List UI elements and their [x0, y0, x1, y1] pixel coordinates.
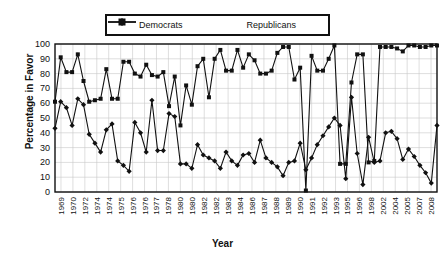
data-point-democrats — [70, 123, 75, 128]
data-point-republicans — [178, 123, 182, 127]
data-point-democrats — [149, 98, 154, 103]
data-point-democrats — [52, 126, 57, 131]
data-point-republicans — [64, 70, 68, 74]
data-point-republicans — [435, 43, 439, 47]
data-point-democrats — [178, 161, 183, 166]
data-point-republicans — [241, 66, 245, 70]
data-point-democrats — [360, 182, 365, 187]
data-point-democrats — [298, 141, 303, 146]
data-point-republicans — [292, 78, 296, 82]
x-axis-tick-label: 1969 — [57, 196, 66, 214]
x-axis-tick-label: 1980 — [188, 196, 197, 214]
y-axis-tick-label: 60 — [40, 98, 50, 108]
data-point-republicans — [406, 43, 410, 47]
x-axis-tick-label: 1974 — [105, 196, 114, 214]
data-point-republicans — [121, 60, 125, 64]
data-point-republicans — [144, 63, 148, 67]
data-point-republicans — [378, 45, 382, 49]
data-point-republicans — [275, 51, 279, 55]
data-point-republicans — [133, 72, 137, 76]
x-axis-tick-label: 1975 — [117, 196, 126, 214]
x-axis-tick-label: 1984 — [236, 196, 245, 214]
x-axis-tick-label: 1980 — [176, 196, 185, 214]
data-point-republicans — [224, 69, 228, 73]
data-point-republicans — [104, 67, 108, 71]
y-axis-tick-label: 70 — [40, 83, 50, 93]
chart-container: Democrats Republicans Percentage in Favo… — [0, 0, 445, 260]
data-point-republicans — [201, 57, 205, 61]
data-point-democrats — [195, 142, 200, 147]
data-point-democrats — [241, 152, 246, 157]
data-point-republicans — [87, 100, 91, 104]
data-point-republicans — [173, 75, 177, 79]
data-point-republicans — [367, 160, 371, 164]
x-axis-tick-label: 1972 — [81, 196, 90, 214]
x-axis-tick-label: 1974 — [93, 196, 102, 214]
y-axis-tick-label: 90 — [40, 54, 50, 64]
data-point-democrats — [286, 160, 291, 165]
y-axis-tick-label: 50 — [40, 113, 50, 123]
data-point-republicans — [167, 104, 171, 108]
x-axis-tick-label: 2007 — [415, 196, 424, 214]
data-point-republicans — [70, 70, 74, 74]
data-point-republicans — [429, 43, 433, 47]
data-point-republicans — [230, 69, 234, 73]
data-point-democrats — [161, 148, 166, 153]
data-point-republicans — [161, 70, 165, 74]
data-point-republicans — [287, 45, 291, 49]
data-point-republicans — [418, 45, 422, 49]
data-point-republicans — [344, 162, 348, 166]
data-point-republicans — [207, 95, 211, 99]
data-point-republicans — [127, 60, 131, 64]
data-point-democrats — [138, 130, 143, 135]
x-axis-tick-label: 1983 — [224, 196, 233, 214]
y-axis-tick-label: 30 — [40, 143, 50, 153]
chart-plot-area: 0102030405060708090100196919701972197419… — [0, 0, 445, 260]
data-point-republicans — [304, 189, 308, 193]
data-point-republicans — [139, 75, 143, 79]
data-point-republicans — [332, 43, 336, 47]
data-point-republicans — [76, 52, 80, 56]
data-point-democrats — [309, 155, 314, 160]
data-point-democrats — [166, 111, 171, 116]
data-point-republicans — [412, 43, 416, 47]
data-point-republicans — [355, 52, 359, 56]
data-point-republicans — [361, 52, 365, 56]
data-point-republicans — [156, 75, 160, 79]
data-point-republicans — [395, 46, 399, 50]
data-point-republicans — [384, 45, 388, 49]
data-point-republicans — [235, 48, 239, 52]
data-point-democrats — [172, 114, 177, 119]
y-axis-tick-label: 0 — [45, 187, 50, 197]
y-axis-tick-label: 40 — [40, 128, 50, 138]
data-point-republicans — [82, 79, 86, 83]
data-point-democrats — [292, 158, 297, 163]
data-point-republicans — [281, 45, 285, 49]
data-point-republicans — [184, 83, 188, 87]
data-point-republicans — [270, 69, 274, 73]
data-point-republicans — [424, 45, 428, 49]
data-point-democrats — [377, 158, 382, 163]
data-point-republicans — [253, 58, 257, 62]
x-axis-tick-label: 2004 — [391, 196, 400, 214]
x-axis-tick-label: 1992 — [320, 196, 329, 214]
y-axis-tick-label: 10 — [40, 172, 50, 182]
data-point-republicans — [310, 54, 314, 58]
data-point-republicans — [116, 97, 120, 101]
data-point-democrats — [400, 157, 405, 162]
y-axis-tick-label: 20 — [40, 157, 50, 167]
x-axis-tick-label: 1990 — [296, 196, 305, 214]
data-point-democrats — [383, 130, 388, 135]
data-point-republicans — [315, 69, 319, 73]
data-point-democrats — [155, 148, 160, 153]
data-point-democrats — [201, 152, 206, 157]
x-axis-tick-label: 1993 — [332, 196, 341, 214]
x-axis-tick-label: 1987 — [260, 196, 269, 214]
data-point-republicans — [349, 80, 353, 84]
data-point-republicans — [264, 72, 268, 76]
data-point-democrats — [258, 138, 263, 143]
x-axis-tick-label: 1976 — [141, 196, 150, 214]
data-point-republicans — [401, 49, 405, 53]
data-point-democrats — [349, 95, 354, 100]
data-point-republicans — [327, 57, 331, 61]
